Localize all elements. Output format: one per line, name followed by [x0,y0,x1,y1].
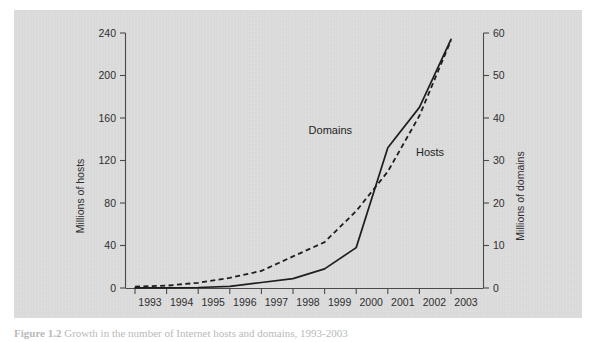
right-tick-label-60: 60 [493,27,505,39]
x-tick-label-2000: 2000 [360,296,384,308]
left-tick-label-0: 0 [110,282,116,294]
x-tick-label-1998: 1998 [296,296,320,308]
series-annotation-domains: Domains [309,124,353,136]
right-tick-label-30: 30 [493,154,505,166]
figure-caption-label: Figure 1.2 [14,327,61,339]
figure-caption-text: Growth in the number of Internet hosts a… [64,327,348,339]
series-line-domains [135,39,451,288]
x-tick-label-1995: 1995 [202,296,226,308]
left-tick-label-120: 120 [98,154,116,166]
right-tick-label-10: 10 [493,239,505,251]
x-tick-label-1997: 1997 [265,296,289,308]
right-tick-label-40: 40 [493,112,505,124]
right-tick-label-20: 20 [493,197,505,209]
figure-root: 240 200 160 120 80 40 0 Millions of host… [0,0,598,342]
x-axis: 1993 1994 1995 1996 1997 1998 1999 2000 … [126,289,484,309]
series-line-hosts [135,40,451,286]
x-tick-label-2001: 2001 [391,296,415,308]
x-tick-label-2003: 2003 [454,296,478,308]
left-tick-label-240: 240 [98,27,116,39]
right-axis-title: Millions of domains [514,151,526,240]
right-tick-label-0: 0 [493,282,499,294]
left-tick-label-40: 40 [104,239,116,251]
x-tick-label-1994: 1994 [170,296,194,308]
left-tick-label-200: 200 [98,69,116,81]
chart-canvas: 240 200 160 120 80 40 0 Millions of host… [0,0,598,342]
left-tick-label-80: 80 [104,197,116,209]
left-axis-title: Millions of hosts [74,159,86,234]
right-axis: 60 50 40 30 20 10 0 Millions of domains [484,27,527,294]
left-axis: 240 200 160 120 80 40 0 Millions of host… [74,27,126,294]
x-tick-label-1993: 1993 [138,296,162,308]
x-tick-label-2002: 2002 [423,296,447,308]
x-tick-label-1996: 1996 [233,296,257,308]
right-tick-label-50: 50 [493,69,505,81]
figure-caption: Figure 1.2 Growth in the number of Inter… [14,326,584,340]
series-annotation-hosts: Hosts [416,146,445,158]
x-tick-label-1999: 1999 [328,296,352,308]
left-tick-label-160: 160 [98,112,116,124]
